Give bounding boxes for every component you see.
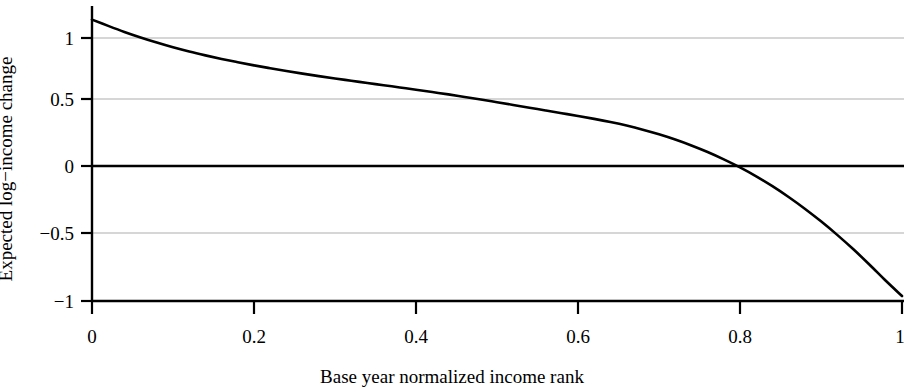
data-series-line [92,20,902,296]
gridlines [92,38,904,233]
x-tick-label-1: 1 [895,327,905,346]
y-tick-label-0: 0 [20,157,74,176]
x-tick-label-0-4: 0.4 [404,327,428,346]
x-tick-label-0-6: 0.6 [566,327,590,346]
y-axis-title: Expected log−income change [0,57,17,282]
x-tick-label-0-8: 0.8 [728,327,752,346]
y-axis-ticks [81,38,92,301]
y-tick-label-1: 1 [20,29,74,48]
y-tick-label-neg-1: −1 [20,292,74,311]
y-tick-label-0-5: 0.5 [20,90,74,109]
y-tick-label-neg-0-5: −0.5 [20,224,74,243]
x-axis-ticks [92,301,902,314]
x-tick-label-0: 0 [87,327,97,346]
x-tick-label-0-2: 0.2 [242,327,266,346]
x-axis-title: Base year normalized income rank [0,366,904,388]
